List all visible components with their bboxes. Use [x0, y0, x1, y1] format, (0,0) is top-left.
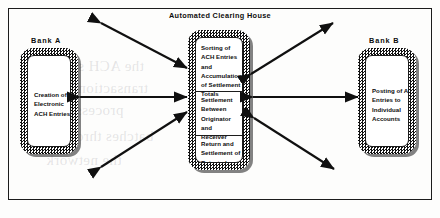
ach-divider-1 — [196, 91, 242, 92]
bank-a-body: Creation ofElectronicACH Entries — [34, 90, 71, 118]
ach-title: Automated Clearing House — [0, 11, 440, 20]
bank-b-body: Posting of ACHEntries toIndividualAccoun… — [372, 86, 409, 123]
bank-b-box: Posting of ACHEntries toIndividualAccoun… — [358, 48, 416, 154]
ach-divider-2 — [196, 135, 242, 136]
bank-a-box: Creation ofElectronicACH Entries — [20, 48, 78, 154]
bank-a-label: Bank A — [31, 36, 61, 45]
ach-section-returns: Return andSettlement ofRejectedEntries — [201, 139, 243, 163]
ach-box: Sorting ofACH EntriesandAccumulationof S… — [188, 30, 250, 170]
bank-b-label: Bank B — [369, 36, 400, 45]
scanned-page: the ACH system transactions are processe… — [0, 0, 440, 218]
